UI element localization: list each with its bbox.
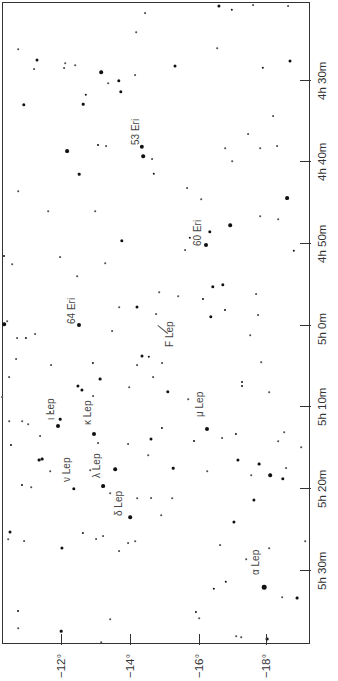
star-dot [23, 540, 25, 542]
star-dot [111, 330, 113, 332]
star-dot [10, 444, 12, 446]
star-dot [92, 432, 96, 436]
star-dot [59, 418, 62, 421]
star-name-label: F Lep [164, 321, 175, 347]
star-dot [272, 115, 274, 117]
star-dot [7, 538, 9, 540]
star-dot [127, 443, 129, 445]
star-dot [258, 463, 261, 466]
star-dot [33, 68, 35, 70]
dec-tick [266, 634, 267, 645]
star-dot [141, 154, 145, 158]
ra-tick-label: 4h 50m [316, 243, 328, 263]
dec-tick-label: −12° [55, 654, 67, 678]
star-dot [255, 293, 257, 295]
star-name-label: ν Lep [61, 458, 72, 482]
star-dot [262, 585, 267, 590]
star-dot [281, 596, 283, 598]
star-dot [171, 497, 173, 499]
star-dot [268, 547, 270, 549]
ra-tick [300, 406, 311, 407]
star-dot [82, 103, 85, 106]
star-dot [21, 484, 23, 486]
star-dot [259, 147, 261, 149]
star-dot [205, 427, 209, 431]
star-dot [257, 314, 259, 316]
star-dot [268, 391, 270, 393]
star-chart: 4h 30m4h 40m4h 50m5h 0m5h 10m5h 20m5h 30… [0, 0, 338, 681]
star-dot [221, 437, 223, 439]
star-dot [136, 497, 138, 499]
chart-frame [2, 2, 310, 644]
star-dot [49, 470, 51, 472]
star-dot [289, 60, 292, 63]
star-dot [17, 627, 19, 629]
star-dot [160, 514, 162, 516]
star-dot [204, 243, 208, 247]
star-dot [2, 322, 6, 326]
star-dot [150, 497, 152, 499]
ra-tick-label: 5h 30m [316, 570, 328, 590]
star-dot [277, 440, 279, 442]
star-dot [184, 249, 186, 251]
star-dot [174, 65, 177, 68]
star-dot [59, 256, 61, 258]
star-dot [127, 542, 129, 544]
star-dot [30, 486, 32, 488]
star-dot [99, 70, 103, 74]
star-dot [76, 275, 78, 277]
star-dot [200, 198, 202, 200]
star-name-label: 60 Eri [192, 220, 203, 246]
ra-tick [300, 488, 311, 489]
star-dot [187, 398, 189, 400]
star-name-label: μ Lep [194, 392, 205, 417]
star-dot [216, 47, 218, 49]
star-dot [147, 454, 149, 456]
star-dot [34, 333, 36, 335]
ra-tick [300, 161, 311, 162]
star-dot [118, 550, 120, 552]
star-dot [260, 361, 262, 363]
star-dot [177, 295, 179, 297]
star-dot [287, 5, 289, 7]
star-dot [161, 362, 163, 364]
star-dot [8, 420, 10, 422]
star-name-label: δ Lep [113, 491, 124, 516]
star-dot [172, 467, 175, 470]
dec-tick-label: −14° [124, 654, 136, 678]
dec-tick-label: −16° [193, 654, 205, 678]
star-dot [74, 64, 76, 66]
star-dot [259, 215, 261, 217]
star-dot [285, 196, 289, 200]
star-dot [155, 313, 157, 315]
star-dot [8, 376, 10, 378]
star-dot [64, 62, 66, 64]
star-dot [107, 82, 109, 84]
star-dot [105, 145, 107, 147]
ra-tick [300, 325, 311, 326]
star-dot [128, 515, 132, 519]
star-dot [109, 618, 111, 620]
star-dot [118, 306, 120, 308]
star-dot [6, 320, 8, 322]
star-dot [109, 492, 111, 494]
star-dot [285, 467, 287, 469]
star-name-label: κ Lep [82, 401, 93, 425]
star-dot [97, 144, 99, 146]
star-dot [136, 306, 139, 309]
star-dot [94, 210, 96, 212]
star-dot [134, 540, 136, 542]
star-dot [152, 376, 154, 378]
star-dot [56, 424, 60, 428]
star-dot [128, 386, 130, 388]
star-dot [17, 48, 19, 50]
star-dot [113, 467, 117, 471]
star-dot [241, 385, 243, 387]
ra-tick-label: 4h 40m [316, 161, 328, 181]
star-dot [21, 420, 23, 422]
ra-tick [300, 570, 311, 571]
star-dot [250, 474, 252, 476]
star-dot [95, 538, 97, 540]
star-dot [277, 218, 279, 220]
star-dot [235, 635, 237, 637]
